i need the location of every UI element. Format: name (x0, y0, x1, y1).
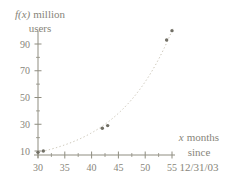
y-tick-label: 10 (20, 146, 30, 157)
axes (34, 31, 175, 159)
y-tick-label: 30 (20, 119, 30, 130)
data-point (101, 127, 104, 130)
data-point (36, 151, 39, 154)
x-tick-label: 55 (167, 162, 177, 173)
chart-figure: 1030507090303540455055 f(x)million users… (0, 0, 232, 180)
y-axis-title-line1: f(x)million (15, 8, 66, 21)
x-tick-label: 50 (140, 162, 150, 173)
model-curve (38, 28, 173, 152)
x-axis-title-line2: since (188, 146, 211, 158)
x-axis-title-line3: 12/31/03 (179, 161, 219, 173)
tick-labels: 1030507090303540455055 (20, 39, 177, 174)
x-tick-label: 40 (87, 162, 97, 173)
y-tick-label: 70 (20, 65, 30, 76)
y-tick-label: 50 (20, 92, 30, 103)
data-point (106, 124, 109, 127)
data-point (42, 149, 45, 152)
exponential-curve (38, 28, 173, 152)
data-points (36, 29, 173, 154)
y-tick-label: 90 (20, 39, 30, 50)
x-tick-label: 45 (113, 162, 123, 173)
x-tick-label: 35 (60, 162, 70, 173)
x-axis-title-line1: xmonths (178, 131, 219, 143)
data-point (170, 29, 173, 32)
x-tick-label: 30 (33, 162, 43, 173)
y-axis-title-line2: users (29, 22, 52, 34)
exponential-growth-chart: 1030507090303540455055 f(x)million users… (0, 0, 232, 180)
data-point (165, 38, 168, 41)
